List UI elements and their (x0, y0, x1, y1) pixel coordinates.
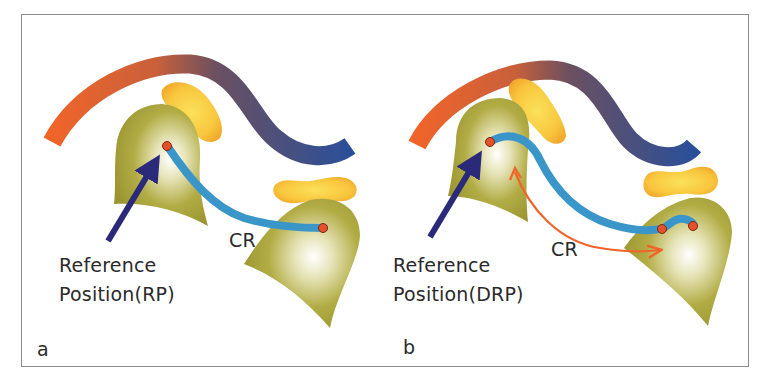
diagram-artwork (0, 0, 764, 388)
drp-point (689, 222, 698, 231)
cr-label-b: CR (551, 240, 578, 259)
reference-label-b-line2: Position(DRP) (393, 285, 524, 304)
cr-point (658, 225, 667, 234)
condyle-lower (244, 199, 360, 328)
reference-label-b-line1: Reference (393, 256, 490, 275)
panel-letter-b: b (403, 338, 415, 357)
reference-point (163, 142, 172, 151)
reference-point (486, 138, 495, 147)
cr-point (319, 224, 328, 233)
articular-disc-lower (643, 167, 718, 197)
panel-letter-a: a (37, 340, 49, 359)
condyle-upper (448, 98, 529, 222)
reference-label-a-line2: Position(RP) (59, 285, 175, 304)
cr-label-a: CR (229, 231, 256, 250)
reference-label-a-line1: Reference (59, 256, 156, 275)
